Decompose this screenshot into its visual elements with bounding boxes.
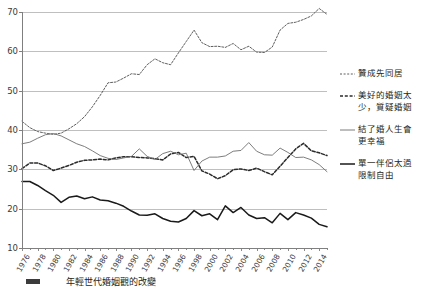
series-line (22, 8, 327, 134)
legend-item[interactable]: 單一伴侶太過限制自由 (340, 158, 436, 181)
y-axis-label: 50 (7, 86, 22, 95)
legend-label: 美好的婚姻太少，質疑婚姻 (358, 90, 436, 113)
legend: 贊成先同居美好的婚姻太少，質疑婚姻結了婚人生會更幸福單一伴侶太過限制自由 (340, 68, 436, 192)
x-axis-label: 2008 (266, 253, 282, 273)
x-axis-label: 1994 (156, 253, 172, 273)
x-axis-label: 2012 (297, 253, 313, 273)
x-axis-label: 1978 (31, 253, 47, 273)
caption-text: 年輕世代婚姻觀的改變 (66, 275, 156, 288)
y-axis-line (22, 12, 23, 248)
legend-line-icon (340, 160, 355, 168)
legend-line-icon (340, 92, 355, 100)
y-axis-label: 70 (7, 8, 22, 17)
legend-label: 贊成先同居 (358, 68, 436, 79)
x-axis-label: 2000 (203, 253, 219, 273)
x-axis-label: 1980 (47, 253, 63, 273)
series-lines (22, 12, 327, 248)
x-axis-label: 1992 (141, 253, 157, 273)
legend-label: 單一伴侶太過限制自由 (358, 158, 436, 181)
y-axis-label: 10 (7, 244, 22, 253)
x-axis-label: 2014 (313, 253, 329, 273)
legend-line-icon (340, 70, 355, 78)
legend-item[interactable]: 贊成先同居 (340, 68, 436, 79)
x-axis-label: 1998 (188, 253, 204, 273)
x-axis-label: 1990 (125, 253, 141, 273)
y-axis-label: 40 (7, 126, 22, 135)
x-axis-line (22, 248, 328, 249)
figure-caption: 年輕世代婚姻觀的改變 (26, 275, 156, 288)
x-axis-label: 1988 (109, 253, 125, 273)
legend-item[interactable]: 結了婚人生會更幸福 (340, 124, 436, 147)
x-axis-label: 2004 (234, 253, 250, 273)
legend-label: 結了婚人生會更幸福 (358, 124, 436, 147)
y-axis-label: 20 (7, 204, 22, 213)
x-axis-label: 1984 (78, 253, 94, 273)
y-axis-label: 30 (7, 165, 22, 174)
x-axis-label: 1996 (172, 253, 188, 273)
x-axis-label: 2006 (250, 253, 266, 273)
legend-item[interactable]: 美好的婚姻太少，質疑婚姻 (340, 90, 436, 113)
caption-marker-icon (26, 279, 40, 284)
plot-area: 1020304050607019761978198019821984198619… (22, 12, 327, 248)
y-axis-label: 60 (7, 47, 22, 56)
x-axis-label: 2010 (281, 253, 297, 273)
legend-line-icon (340, 126, 355, 134)
x-axis-label: 1986 (94, 253, 110, 273)
x-axis-label: 2002 (219, 253, 235, 273)
x-axis-label: 1976 (15, 253, 31, 273)
x-axis-label: 1982 (62, 253, 78, 273)
series-line (22, 182, 327, 227)
